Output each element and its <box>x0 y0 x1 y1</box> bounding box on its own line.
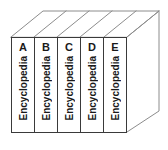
book-e-letter: E <box>111 41 118 53</box>
book-a-letter: A <box>19 41 27 53</box>
book-b: B Encyclopedia <box>35 38 57 132</box>
book-c-title: Encyclopedia <box>64 56 75 120</box>
book-e-title: Encyclopedia <box>110 56 121 120</box>
encyclopedia-illustration: A Encyclopedia B Encyclopedia C Encyclop… <box>0 0 168 150</box>
book-b-letter: B <box>42 41 50 53</box>
book-e: E Encyclopedia <box>104 38 126 132</box>
book-d: D Encyclopedia <box>81 38 103 132</box>
book-d-title: Encyclopedia <box>87 56 98 120</box>
book-a-title: Encyclopedia <box>18 56 29 120</box>
book-a: A Encyclopedia <box>12 38 34 132</box>
book-d-letter: D <box>88 41 96 53</box>
spine-labels-layer: A Encyclopedia B Encyclopedia C Encyclop… <box>0 0 168 150</box>
book-b-title: Encyclopedia <box>41 56 52 120</box>
book-c: C Encyclopedia <box>58 38 80 132</box>
book-c-letter: C <box>65 41 73 53</box>
